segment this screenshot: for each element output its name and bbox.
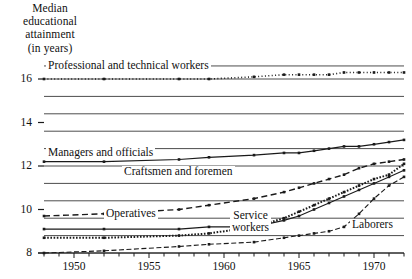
data-point-marker xyxy=(403,169,406,172)
data-point-marker xyxy=(253,76,256,79)
data-point-marker xyxy=(388,71,391,74)
data-point-marker xyxy=(358,189,361,192)
data-point-marker xyxy=(298,73,301,76)
x-axis-tick-label: 1950 xyxy=(54,261,94,273)
data-point-marker xyxy=(43,160,46,163)
data-point-marker xyxy=(328,73,331,76)
data-point-marker xyxy=(343,195,346,198)
data-point-marker xyxy=(358,167,361,170)
data-point-marker xyxy=(283,73,286,76)
series-label-managers-and-officials: Managers and officials xyxy=(46,147,155,159)
data-point-marker xyxy=(343,226,346,229)
data-point-marker xyxy=(403,71,406,74)
data-point-marker xyxy=(43,215,46,218)
data-point-marker xyxy=(328,147,331,150)
data-point-marker xyxy=(328,202,331,205)
data-point-marker xyxy=(178,245,181,248)
plot-area: 81012141619501955196019651970Professiona… xyxy=(0,0,412,279)
data-point-marker xyxy=(298,152,301,155)
data-point-marker xyxy=(298,210,301,213)
x-axis-tick-label: 1955 xyxy=(129,261,169,273)
data-point-marker xyxy=(43,252,46,255)
data-point-marker xyxy=(313,208,316,211)
data-point-marker xyxy=(373,143,376,146)
data-point-marker xyxy=(43,78,46,81)
data-point-marker xyxy=(313,182,316,185)
data-point-marker xyxy=(208,204,211,207)
data-point-marker xyxy=(208,156,211,159)
data-point-marker xyxy=(298,234,301,237)
data-point-marker xyxy=(358,213,361,216)
y-axis-tick-label: 16 xyxy=(12,73,32,85)
data-point-marker xyxy=(283,191,286,194)
y-axis-tick-label: 14 xyxy=(12,117,32,129)
data-point-marker xyxy=(328,197,331,200)
data-point-marker xyxy=(373,197,376,200)
y-axis-tick-label: 10 xyxy=(12,204,32,216)
y-axis-tick-label: 8 xyxy=(12,247,32,259)
data-point-marker xyxy=(178,228,181,231)
data-point-marker xyxy=(208,243,211,246)
data-point-marker xyxy=(403,176,406,179)
data-point-marker xyxy=(283,152,286,155)
data-point-marker xyxy=(358,71,361,74)
x-axis-tick-label: 1960 xyxy=(204,261,244,273)
data-point-marker xyxy=(343,145,346,148)
data-point-marker xyxy=(178,78,181,81)
data-point-marker xyxy=(343,71,346,74)
data-point-marker xyxy=(103,250,106,253)
data-point-marker xyxy=(373,163,376,166)
series-label-service-workers: Serviceworkers xyxy=(230,209,271,233)
series-label-laborers: Laborers xyxy=(350,219,395,231)
data-point-marker xyxy=(103,236,106,239)
data-point-marker xyxy=(328,230,331,233)
data-point-marker xyxy=(103,160,106,163)
data-point-marker xyxy=(43,228,46,231)
data-point-marker xyxy=(388,173,391,176)
data-point-marker xyxy=(43,236,46,239)
series-line xyxy=(44,177,404,253)
data-point-marker xyxy=(343,191,346,194)
data-point-marker xyxy=(328,178,331,181)
chart-svg xyxy=(0,0,412,279)
data-point-marker xyxy=(298,215,301,218)
series-label-craftsmen-and-foremen: Craftsmen and foremen xyxy=(122,166,235,178)
data-point-marker xyxy=(373,71,376,74)
data-point-marker xyxy=(208,226,211,229)
data-point-marker xyxy=(253,197,256,200)
series-label-professional-and-technical-workers: Professional and technical workers xyxy=(46,60,211,72)
data-point-marker xyxy=(403,158,406,161)
x-axis-tick-label: 1970 xyxy=(354,261,394,273)
data-point-marker xyxy=(403,139,406,142)
data-point-marker xyxy=(373,178,376,181)
series-label-operatives: Operatives xyxy=(104,208,158,220)
data-point-marker xyxy=(403,163,406,166)
data-point-marker xyxy=(298,186,301,189)
data-point-marker xyxy=(253,241,256,244)
data-point-marker xyxy=(103,228,106,231)
data-point-marker xyxy=(313,232,316,235)
x-axis-tick-label: 1965 xyxy=(279,261,319,273)
data-point-marker xyxy=(208,78,211,81)
data-point-marker xyxy=(103,78,106,81)
data-point-marker xyxy=(388,184,391,187)
data-point-marker xyxy=(178,158,181,161)
data-point-marker xyxy=(388,141,391,144)
data-point-marker xyxy=(283,236,286,239)
data-point-marker xyxy=(343,173,346,176)
data-point-marker xyxy=(313,149,316,152)
data-point-marker xyxy=(313,73,316,76)
data-point-marker xyxy=(283,217,286,220)
data-point-marker xyxy=(358,145,361,148)
data-point-marker xyxy=(178,208,181,211)
data-point-marker xyxy=(388,160,391,163)
series-label-line-2: workers xyxy=(232,221,269,233)
y-axis-tick-label: 12 xyxy=(12,160,32,172)
series-line xyxy=(44,73,404,80)
data-point-marker xyxy=(373,182,376,185)
data-point-marker xyxy=(313,204,316,207)
series-label-line-1: Service xyxy=(232,209,269,221)
data-point-marker xyxy=(253,154,256,157)
chart-root: Median educational attainment (in years)… xyxy=(0,0,412,279)
data-point-marker xyxy=(208,232,211,235)
